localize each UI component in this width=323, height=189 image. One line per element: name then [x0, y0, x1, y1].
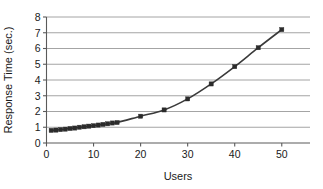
data-point-marker — [59, 128, 63, 132]
data-point-marker — [139, 114, 143, 118]
x-axis-title: Users — [164, 170, 193, 182]
data-point-marker — [87, 124, 91, 128]
data-point-marker — [68, 126, 72, 130]
data-point-marker — [106, 122, 110, 126]
y-tick-label: 7 — [35, 27, 41, 39]
data-point-marker — [63, 127, 67, 131]
y-tick-label: 2 — [35, 105, 41, 117]
y-tick-label: 8 — [35, 11, 41, 23]
y-tick-label: 5 — [35, 58, 41, 70]
y-tick-label: 4 — [35, 74, 41, 86]
x-tick-label: 50 — [276, 148, 288, 160]
data-point-marker — [162, 108, 166, 112]
y-tick-label: 3 — [35, 90, 41, 102]
chart-container: 012345678 01020304050 Users Response Tim… — [0, 0, 323, 189]
data-point-marker — [110, 121, 114, 125]
data-point-marker — [77, 125, 81, 129]
line-chart: 012345678 01020304050 Users Response Tim… — [0, 0, 323, 189]
data-point-marker — [49, 128, 53, 132]
data-point-marker — [54, 128, 58, 132]
y-tick-label: 6 — [35, 42, 41, 54]
data-point-marker — [82, 125, 86, 129]
data-point-marker — [115, 120, 119, 124]
data-point-marker — [91, 124, 95, 128]
y-tick-label: 0 — [35, 137, 41, 149]
data-point-marker — [280, 28, 284, 32]
data-point-marker — [186, 97, 190, 101]
data-point-marker — [96, 123, 100, 127]
y-tick-labels: 012345678 — [35, 11, 41, 149]
data-point-marker — [101, 122, 105, 126]
data-point-marker — [73, 126, 77, 130]
x-tick-label: 10 — [88, 148, 100, 160]
y-tick-label: 1 — [35, 121, 41, 133]
x-tick-label: 0 — [44, 148, 50, 160]
x-tick-label: 20 — [135, 148, 147, 160]
x-tick-label: 40 — [229, 148, 241, 160]
data-point-marker — [256, 46, 260, 50]
x-tick-label: 30 — [182, 148, 194, 160]
data-point-marker — [233, 65, 237, 69]
chart-background — [0, 0, 323, 189]
data-point-marker — [209, 82, 213, 86]
y-axis-title: Response Time (sec.) — [2, 27, 14, 134]
